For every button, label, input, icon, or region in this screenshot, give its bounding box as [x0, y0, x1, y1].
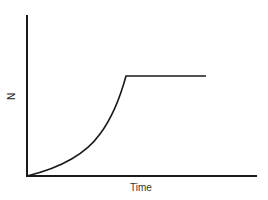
growth-curve — [27, 76, 206, 176]
x-axis-label: Time — [130, 182, 152, 193]
chart-canvas — [0, 0, 268, 200]
y-axis-label: N — [6, 93, 17, 100]
